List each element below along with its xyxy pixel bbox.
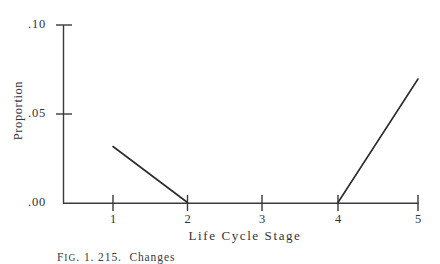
y-tick-label-005: .05: [0, 106, 46, 121]
caption-number: . 1. 215.: [76, 251, 121, 263]
y-tick-label-000: .00: [0, 195, 46, 210]
chart-plot-area: Proportion .10 .05 .00 1 2 3 4 5: [0, 0, 440, 240]
figure-caption: FIG. 1. 215. Changes: [57, 251, 175, 263]
x-tick-label-2: 2: [178, 212, 198, 227]
figure-container: Proportion .10 .05 .00 1 2 3 4 5 Life Cy…: [0, 0, 440, 264]
data-line-segment-1: [113, 147, 188, 203]
x-tick-label-3: 3: [252, 212, 272, 227]
caption-fig-label-rest: IG: [64, 253, 76, 263]
chart-svg: [0, 0, 440, 240]
y-tick-label-010: .10: [0, 17, 46, 32]
x-tick-label-4: 4: [328, 212, 348, 227]
x-tick-label-1: 1: [103, 212, 123, 227]
x-tick-label-5: 5: [408, 212, 428, 227]
caption-text: Changes: [129, 251, 175, 263]
data-line-segment-2: [338, 79, 418, 203]
x-axis-title: Life Cycle Stage: [120, 228, 370, 244]
